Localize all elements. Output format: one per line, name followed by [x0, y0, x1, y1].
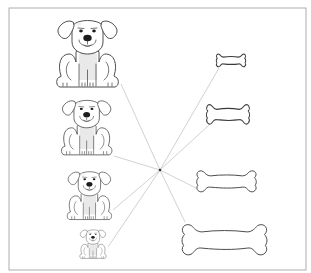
dog-2-icon [61, 100, 112, 155]
worksheet-illustration [0, 0, 311, 273]
dog-1-line [121, 84, 160, 170]
dog-3-line [113, 170, 160, 210]
bone-3-icon [197, 171, 257, 192]
bone-3-line [160, 170, 196, 188]
dog-4-line [108, 170, 160, 247]
bones-column [182, 54, 267, 255]
dog-4-icon [80, 230, 106, 259]
dog-3-icon [67, 172, 111, 220]
dog-2-line [114, 156, 160, 170]
worksheet-canvas [0, 0, 311, 273]
dogs-column [57, 21, 119, 259]
bone-4-icon [182, 225, 267, 255]
bone-1-icon [216, 54, 245, 67]
bone-2-icon [207, 105, 250, 124]
dog-1-icon [57, 21, 119, 88]
connector-lines [108, 68, 219, 247]
center-point [159, 169, 162, 172]
bone-2-line [160, 125, 209, 170]
bone-4-line [160, 170, 185, 222]
